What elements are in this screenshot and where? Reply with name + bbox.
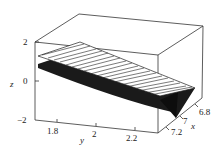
z-tick-label: 2 — [23, 37, 28, 47]
y-axis-label: y — [79, 135, 84, 145]
x-tick-label: 6.8 — [199, 107, 211, 117]
x-tick-label: 7 — [183, 116, 188, 126]
z-axis-label: z — [9, 79, 14, 89]
x-tick-label: 7.2 — [171, 127, 182, 137]
z-tick-label: 0 — [23, 76, 28, 86]
z-axis: 2 0 −2 z — [9, 37, 39, 125]
surface-plot-3d: 2 0 −2 z 1.8 2 2.2 y 6.8 7 7.2 x — [0, 0, 218, 153]
z-tick-label: −2 — [17, 115, 27, 125]
y-tick-label: 2.2 — [126, 133, 137, 143]
y-tick-label: 1.8 — [47, 126, 59, 136]
x-axis-label: x — [190, 121, 195, 131]
y-tick-label: 2 — [92, 129, 97, 139]
